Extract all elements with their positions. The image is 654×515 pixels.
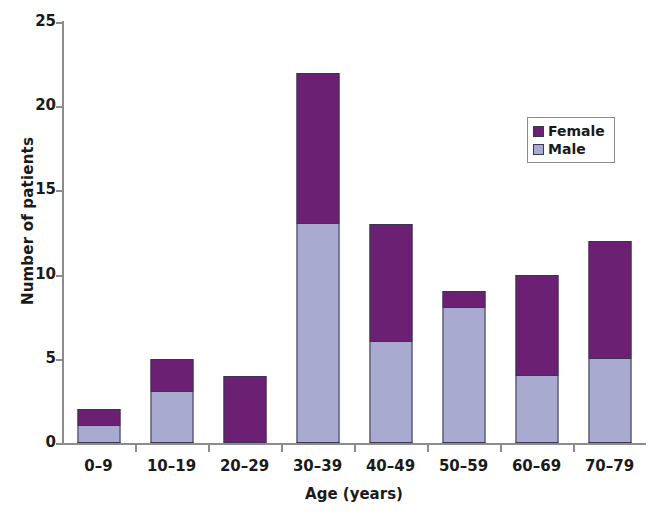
legend: Female Male	[527, 117, 615, 163]
legend-item-female: Female	[533, 122, 605, 140]
bar-slot	[427, 22, 500, 443]
bar-slot	[62, 22, 135, 443]
bar-slot	[354, 22, 427, 443]
bar-segment-male[interactable]	[442, 308, 485, 443]
bar-stack[interactable]	[369, 224, 412, 443]
y-axis-tick-label: 15	[16, 180, 56, 198]
bar-stack[interactable]	[150, 359, 193, 443]
bar-slot	[135, 22, 208, 443]
legend-item-male: Male	[533, 140, 605, 158]
y-axis-tick-label: 0	[16, 433, 56, 451]
bar-segment-female[interactable]	[296, 73, 339, 225]
legend-swatch-male-icon	[533, 144, 544, 155]
x-axis-tick-mark	[354, 444, 356, 452]
bar-segment-male[interactable]	[77, 426, 120, 443]
bar-segment-female[interactable]	[150, 359, 193, 393]
y-axis-tick-label: 25	[16, 12, 56, 30]
legend-label-female: Female	[548, 124, 605, 138]
x-axis-tick-mark	[500, 444, 502, 452]
bar-stack[interactable]	[588, 241, 631, 443]
x-axis-tick-label: 70–79	[573, 457, 646, 475]
legend-swatch-female-icon	[533, 126, 544, 137]
x-axis-tick-label: 30–39	[281, 457, 354, 475]
bar-segment-male[interactable]	[588, 359, 631, 443]
bar-segment-female[interactable]	[369, 224, 412, 342]
bar-segment-male[interactable]	[296, 224, 339, 443]
bar-slot	[208, 22, 281, 443]
x-axis-tick-mark	[281, 444, 283, 452]
y-axis-tick-label: 20	[16, 96, 56, 114]
bar-stack[interactable]	[442, 291, 485, 443]
x-axis-tick-label: 20–29	[208, 457, 281, 475]
y-axis-tick-label: 5	[16, 349, 56, 367]
x-axis-tick-mark	[573, 444, 575, 452]
bar-slot	[573, 22, 646, 443]
bar-stack[interactable]	[515, 275, 558, 443]
bar-segment-male[interactable]	[369, 342, 412, 443]
x-axis-tick-label: 0–9	[62, 457, 135, 475]
x-axis-tick-mark	[427, 444, 429, 452]
bar-segment-male[interactable]	[150, 392, 193, 443]
bar-segment-female[interactable]	[588, 241, 631, 359]
bar-stack[interactable]	[296, 73, 339, 443]
bar-stack[interactable]	[77, 409, 120, 443]
bar-stack[interactable]	[223, 376, 266, 443]
y-axis-tick-label: 10	[16, 265, 56, 283]
bar-slot	[500, 22, 573, 443]
x-axis-tick-mark	[135, 444, 137, 452]
stacked-bar-chart: Number of patients 0510152025 0–910–1920…	[0, 0, 654, 515]
x-axis-tick-label: 40–49	[354, 457, 427, 475]
bar-segment-female[interactable]	[223, 376, 266, 443]
legend-label-male: Male	[548, 142, 586, 156]
x-axis-tick-mark	[208, 444, 210, 452]
x-axis-title: Age (years)	[62, 485, 646, 503]
y-axis-tick-mark	[56, 443, 63, 445]
bar-segment-female[interactable]	[442, 291, 485, 308]
x-axis-tick-label: 10–19	[135, 457, 208, 475]
bar-segment-female[interactable]	[77, 409, 120, 426]
bar-segment-male[interactable]	[515, 376, 558, 443]
x-axis-tick-label: 60–69	[500, 457, 573, 475]
bar-slot	[281, 22, 354, 443]
y-axis-title: Number of patients	[19, 111, 37, 331]
x-axis-tick-label: 50–59	[427, 457, 500, 475]
bar-segment-female[interactable]	[515, 275, 558, 376]
